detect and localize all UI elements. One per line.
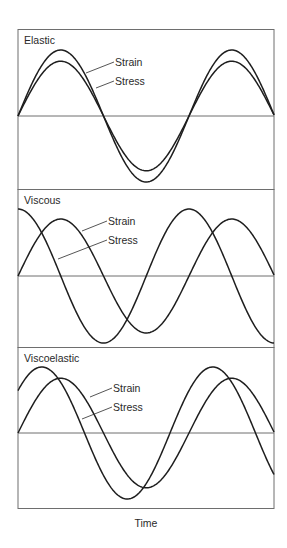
panel-elastic: Elastic Strain Stress	[18, 30, 274, 190]
strain-label: Strain	[115, 56, 143, 68]
panel-title: Viscoelastic	[24, 352, 79, 364]
strain-label: Strain	[113, 382, 141, 394]
strain-leader-line	[90, 388, 112, 397]
panel-frame	[18, 30, 274, 190]
x-axis-label: Time	[135, 517, 158, 529]
stress-label: Stress	[115, 75, 145, 87]
stress-leader-line	[96, 81, 114, 88]
figure-canvas: Elastic Strain Stress Viscous Strain Str…	[0, 0, 287, 548]
panel-title: Viscous	[24, 194, 61, 206]
strain-label: Strain	[108, 215, 136, 227]
strain-leader-line	[82, 221, 107, 231]
stress-leader-line	[82, 407, 112, 419]
panel-viscoelastic: Viscoelastic Strain Stress	[18, 348, 274, 509]
stress-label: Stress	[113, 401, 143, 413]
stress-leader-line	[58, 240, 107, 259]
panel-frame	[18, 190, 274, 348]
panel-title: Elastic	[24, 34, 55, 46]
stress-label: Stress	[108, 234, 138, 246]
panel-viscous: Viscous Strain Stress	[18, 190, 274, 348]
strain-leader-line	[86, 62, 114, 73]
